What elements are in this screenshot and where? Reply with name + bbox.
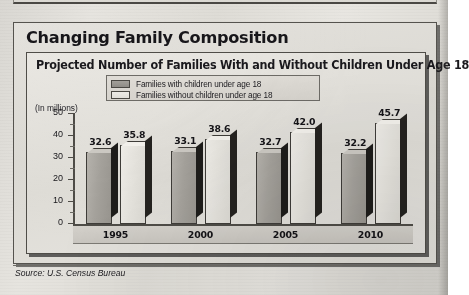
legend-item-with-children: Families with children under age 18	[111, 79, 315, 89]
legend-item-without-children: Families without children under age 18	[111, 90, 315, 100]
bar-side-face	[196, 142, 203, 218]
y-axis-minor-tick	[70, 212, 75, 213]
y-axis-tick: 0	[68, 223, 75, 224]
bar-2010-with-children: 32.2	[341, 153, 367, 224]
y-axis-tick: 40	[68, 135, 75, 136]
y-axis-line	[73, 114, 75, 224]
bar-value-label: 32.7	[259, 136, 281, 147]
x-axis-label-2005: 2005	[273, 229, 298, 240]
y-axis-tick-label: 30	[53, 151, 63, 161]
y-axis-minor-tick	[70, 124, 75, 125]
source-note: Source: U.S. Census Bureau	[15, 268, 125, 278]
y-axis-tick-label: 10	[53, 195, 63, 205]
bar-side-face	[145, 136, 152, 218]
figure-title: Changing Family Composition	[26, 28, 288, 47]
y-axis-minor-tick	[70, 168, 75, 169]
bar-value-label: 45.7	[378, 107, 400, 118]
plot-area: 0102030405032.635.833.138.632.742.032.24…	[73, 114, 413, 224]
previous-panel-sliver	[13, 0, 437, 4]
bar-1995-with-children: 32.6	[86, 152, 112, 224]
y-axis-tick: 50	[68, 113, 75, 114]
bar-side-face	[366, 144, 373, 218]
x-axis-label-1995: 1995	[103, 229, 128, 240]
bar-value-label: 33.1	[174, 135, 196, 146]
bar-side-face	[281, 143, 288, 218]
x-axis-label-2000: 2000	[188, 229, 213, 240]
y-axis-tick: 30	[68, 157, 75, 158]
legend-swatch-without-children	[111, 91, 130, 99]
bar-side-face	[230, 130, 237, 218]
bar-1995-without-children: 35.8	[120, 145, 146, 224]
bar-2010-without-children: 45.7	[375, 123, 401, 224]
bar-value-label: 32.6	[89, 136, 111, 147]
bar-value-label: 38.6	[208, 123, 230, 134]
bar-value-label: 35.8	[123, 129, 145, 140]
y-axis-tick-label: 50	[53, 107, 63, 117]
y-axis-tick: 20	[68, 179, 75, 180]
legend-label-with-children: Families with children under age 18	[136, 80, 261, 89]
bar-side-face	[315, 122, 322, 218]
x-axis-label-2010: 2010	[358, 229, 383, 240]
bar-side-face	[400, 114, 407, 218]
x-axis-label-band: 1995200020052010	[73, 226, 413, 244]
bar-2000-without-children: 38.6	[205, 139, 231, 224]
y-axis-tick-label: 0	[58, 217, 63, 227]
legend-label-without-children: Families without children under age 18	[136, 91, 272, 100]
chart-legend: Families with children under age 18 Fami…	[106, 75, 320, 101]
page-edge-shadow	[438, 0, 448, 295]
chart-figure: Changing Family Composition Projected Nu…	[13, 22, 437, 264]
bar-value-label: 32.2	[344, 137, 366, 148]
bar-2000-with-children: 33.1	[171, 151, 197, 224]
y-axis-tick-label: 40	[53, 129, 63, 139]
y-axis-minor-tick	[70, 146, 75, 147]
bar-2005-without-children: 42.0	[290, 132, 316, 224]
chart-panel: Projected Number of Families With and Wi…	[26, 52, 426, 254]
y-axis-tick-label: 20	[53, 173, 63, 183]
bar-value-label: 42.0	[293, 116, 315, 127]
footer-rule	[13, 265, 437, 266]
bar-side-face	[111, 143, 118, 218]
legend-swatch-with-children	[111, 80, 130, 88]
y-axis-minor-tick	[70, 190, 75, 191]
bar-2005-with-children: 32.7	[256, 152, 282, 224]
y-axis-tick: 10	[68, 201, 75, 202]
chart-subtitle: Projected Number of Families With and Wi…	[36, 58, 469, 72]
